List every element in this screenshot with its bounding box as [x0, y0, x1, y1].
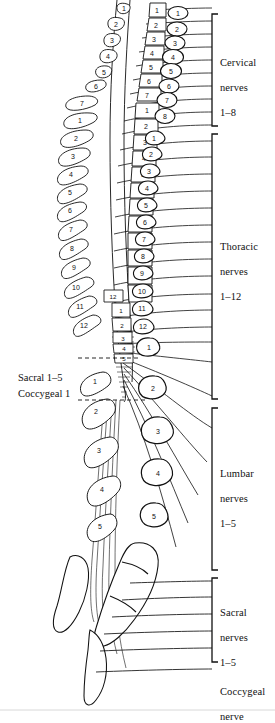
svg-text:1: 1	[152, 135, 156, 142]
svg-text:2: 2	[120, 322, 124, 329]
svg-text:5: 5	[144, 202, 148, 209]
region-label-lumbar-line2: nerves	[220, 493, 248, 504]
svg-text:1: 1	[122, 5, 126, 12]
region-label-coccygeal-line2: nerve	[220, 711, 244, 722]
cervical-bracket	[212, 14, 218, 126]
svg-text:4: 4	[171, 54, 175, 61]
callout-coccygeal-1: Coccygeal 1	[18, 387, 70, 400]
svg-text:5: 5	[68, 189, 72, 196]
svg-text:4: 4	[156, 470, 160, 477]
svg-text:10: 10	[72, 284, 80, 291]
region-label-coccygeal-line1: Coccygeal	[220, 686, 265, 697]
svg-text:12: 12	[139, 323, 147, 330]
svg-text:3: 3	[156, 428, 160, 435]
svg-text:1: 1	[147, 344, 151, 351]
region-label-thoracic: Thoracic nerves 1–12	[220, 228, 258, 304]
region-label-cervical-line1: Cervical	[220, 57, 256, 68]
cervical-spinous-processes	[66, 3, 130, 110]
sacrum-outline	[94, 543, 158, 647]
svg-text:12: 12	[110, 293, 117, 300]
svg-text:6: 6	[143, 219, 147, 226]
svg-text:6: 6	[147, 78, 151, 85]
svg-text:5: 5	[169, 68, 173, 75]
region-label-thoracic-line3: 1–12	[220, 291, 241, 302]
svg-text:2: 2	[114, 21, 118, 28]
svg-text:8: 8	[163, 113, 167, 120]
svg-text:6: 6	[167, 83, 171, 90]
svg-text:4: 4	[106, 53, 110, 60]
svg-text:5: 5	[98, 523, 102, 530]
region-label-thoracic-line2: nerves	[220, 266, 248, 277]
svg-text:2: 2	[154, 22, 158, 29]
svg-text:11: 11	[76, 303, 83, 310]
svg-text:6: 6	[68, 207, 72, 214]
svg-text:11: 11	[138, 305, 145, 312]
svg-text:9: 9	[72, 264, 76, 271]
svg-text:2: 2	[94, 408, 98, 415]
svg-text:3: 3	[147, 168, 151, 175]
svg-text:1: 1	[155, 7, 159, 14]
svg-text:5: 5	[152, 513, 156, 520]
svg-text:2: 2	[144, 123, 148, 130]
svg-text:4: 4	[100, 486, 104, 493]
svg-text:4: 4	[150, 50, 154, 57]
region-label-lumbar-line3: 1–5	[220, 518, 236, 529]
svg-text:3: 3	[97, 447, 101, 454]
svg-text:8: 8	[141, 253, 145, 260]
svg-text:7: 7	[165, 97, 169, 104]
region-label-cervical-line3: 1–8	[220, 107, 236, 118]
region-label-cervical-line2: nerves	[220, 82, 248, 93]
svg-text:4: 4	[145, 185, 149, 192]
svg-text:1: 1	[93, 378, 97, 385]
svg-text:7: 7	[69, 226, 73, 233]
svg-text:3: 3	[173, 40, 177, 47]
svg-text:7: 7	[80, 100, 84, 107]
svg-text:3: 3	[121, 335, 125, 342]
sacral-bracket	[212, 578, 218, 662]
callout-sacral-1-5: Sacral 1–5	[18, 371, 63, 384]
svg-text:3: 3	[152, 36, 156, 43]
svg-text:9: 9	[140, 270, 144, 277]
region-brackets	[212, 14, 218, 662]
region-label-coccygeal: Coccygeal nerve	[220, 673, 265, 723]
svg-text:4: 4	[69, 171, 73, 178]
svg-text:10: 10	[138, 288, 146, 295]
svg-text:5: 5	[102, 69, 106, 76]
cord-segment-t12: 12	[104, 290, 123, 302]
svg-text:7: 7	[145, 92, 149, 99]
svg-text:2: 2	[74, 135, 78, 142]
svg-text:2: 2	[149, 151, 153, 158]
lumbar-spinous-processes	[80, 372, 120, 542]
coccygeal-nerve-line	[96, 669, 212, 672]
svg-text:6: 6	[94, 83, 98, 90]
svg-text:1: 1	[119, 307, 123, 314]
svg-text:3: 3	[110, 37, 114, 44]
thoracic-bracket	[212, 134, 218, 399]
svg-text:7: 7	[142, 236, 146, 243]
svg-text:2: 2	[151, 385, 155, 392]
region-label-sacral-line1: Sacral	[220, 607, 247, 618]
region-label-lumbar-line1: Lumbar	[220, 468, 254, 479]
svg-text:5: 5	[149, 64, 153, 71]
svg-text:1: 1	[145, 107, 149, 114]
region-label-cervical: Cervical nerves 1–8	[220, 44, 256, 120]
lumbar-bracket	[212, 408, 218, 570]
svg-text:1: 1	[78, 117, 82, 124]
svg-text:2: 2	[175, 26, 179, 33]
svg-text:5: 5	[122, 355, 126, 362]
svg-text:4: 4	[122, 345, 126, 352]
region-label-lumbar: Lumbar nerves 1–5	[220, 455, 254, 531]
region-label-sacral: Sacral nerves 1–5	[220, 594, 248, 670]
svg-text:8: 8	[70, 245, 74, 252]
region-label-thoracic-line1: Thoracic	[220, 241, 258, 252]
region-label-sacral-line2: nerves	[220, 632, 248, 643]
svg-text:12: 12	[80, 322, 88, 329]
svg-text:3: 3	[71, 153, 75, 160]
region-label-sacral-line3: 1–5	[220, 657, 236, 668]
svg-text:1: 1	[176, 10, 180, 17]
